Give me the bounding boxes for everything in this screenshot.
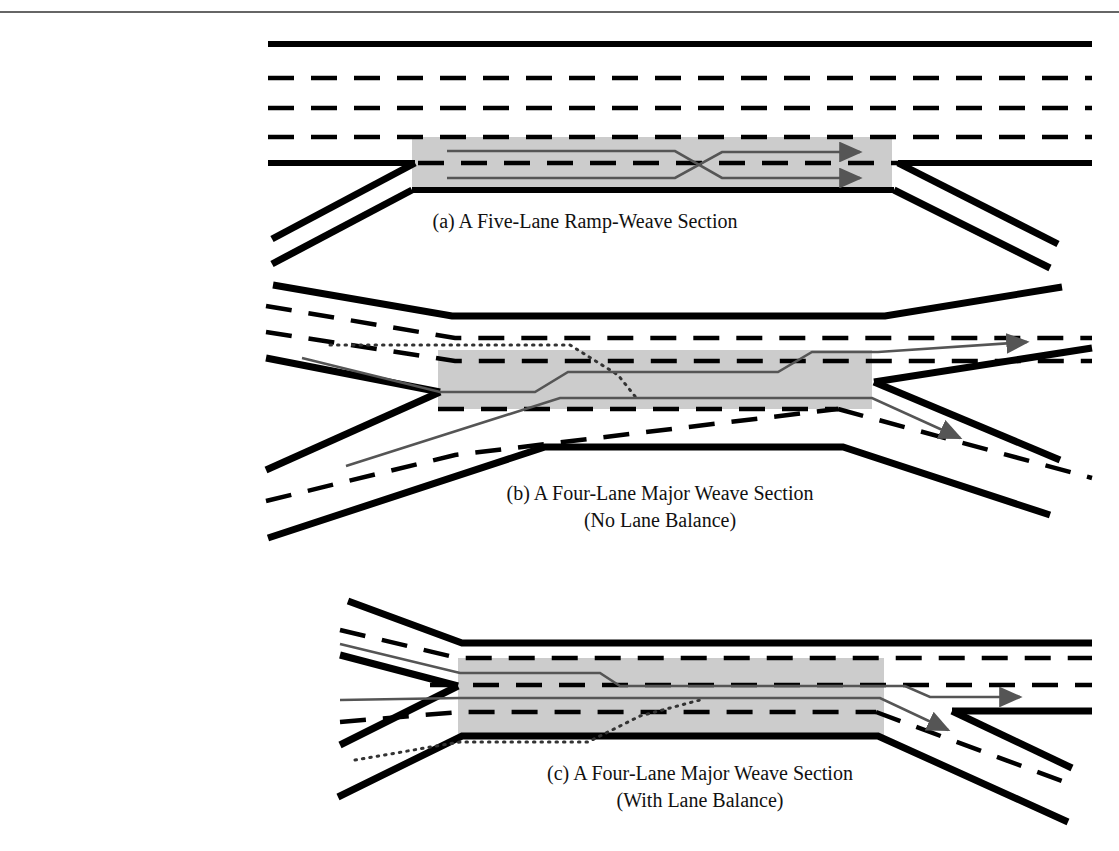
panel-a-caption: (a) A Five-Lane Ramp-Weave Section [433, 210, 738, 233]
panel-c-caption-secondary: (With Lane Balance) [617, 789, 784, 812]
panel-b-caption: (b) A Four-Lane Major Weave Section [507, 482, 814, 505]
panel-b-caption-secondary: (No Lane Balance) [584, 509, 736, 532]
figure-canvas: (a) A Five-Lane Ramp-Weave Section (b) A… [0, 0, 1119, 851]
weave-sections-diagram: (a) A Five-Lane Ramp-Weave Section (b) A… [0, 0, 1119, 851]
panel-c-caption: (c) A Four-Lane Major Weave Section [547, 762, 853, 785]
